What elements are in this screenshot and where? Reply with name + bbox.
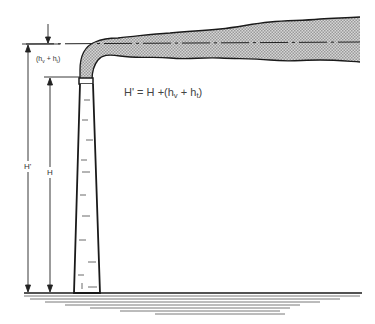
stack-plume-diagram	[0, 0, 375, 324]
hv-subscript: v	[42, 59, 44, 64]
eq-hv-subscript: v	[174, 91, 178, 100]
dimension-lines	[22, 24, 80, 292]
chimney-stack	[74, 78, 100, 293]
plus-sign: +	[47, 55, 51, 62]
effective-height-label: H'	[24, 161, 31, 172]
eq-lhs: H'	[124, 86, 134, 98]
ground	[24, 293, 362, 314]
eq-h: H	[147, 86, 155, 98]
eq-plus-2: +	[181, 86, 187, 98]
plume-rise-label: (hv + ht)	[36, 55, 60, 64]
stack-height-label: H	[47, 167, 53, 178]
eq-paren-close: )	[199, 86, 203, 98]
paren-close: )	[58, 55, 60, 62]
plume	[80, 17, 360, 80]
effective-height-equation: H' = H +(hv + ht)	[124, 86, 202, 100]
eq-equals: =	[137, 86, 143, 98]
